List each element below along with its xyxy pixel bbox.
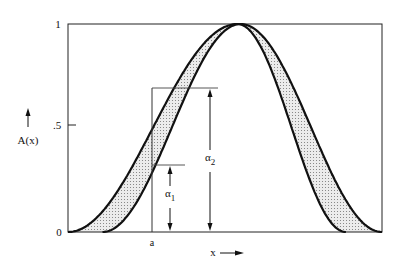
alpha2-arrow-up-icon [208, 89, 213, 97]
x-axis-label: x [210, 246, 216, 258]
alpha2-arrow-down-icon [208, 223, 213, 231]
x-axis-arrow-icon [235, 251, 244, 256]
a-label: a [150, 237, 155, 248]
y-axis-label: A(x) [18, 134, 39, 147]
figure-canvas: 1 .5 0 A(x) a α1 α2 x [0, 0, 393, 271]
y-tick-label-half: .5 [53, 119, 62, 131]
y-tick-label-1: 1 [55, 18, 61, 30]
y-tick-label-0: 0 [56, 226, 62, 238]
alpha1-arrow-down-icon [168, 223, 173, 231]
y-axis-arrow-icon [26, 108, 31, 116]
shaded-band [68, 24, 382, 232]
alpha1-arrow-up-icon [168, 166, 173, 174]
